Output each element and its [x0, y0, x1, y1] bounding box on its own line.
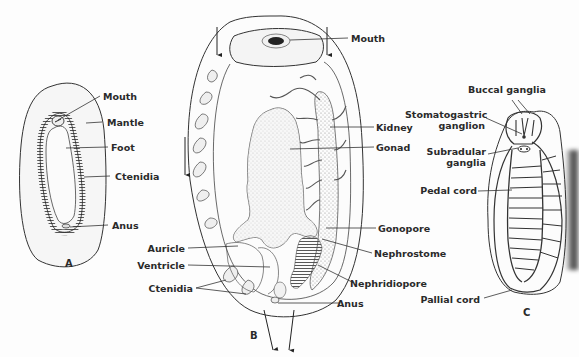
- label-b-auricle: Auricle: [130, 243, 185, 254]
- label-a-mouth: Mouth: [103, 91, 137, 102]
- label-c-subradular-line1: Subradular: [405, 146, 486, 157]
- label-b-ventricle: Ventricle: [124, 260, 185, 271]
- panel-a-drawing: [20, 83, 110, 267]
- label-a-ctenidia: Ctenidia: [115, 171, 159, 182]
- label-c-stomatogastric-line2: ganglion: [405, 120, 485, 131]
- figure-drawing: [0, 0, 579, 357]
- panel-letter-c: C: [523, 307, 530, 318]
- chiton-anatomy-figure: Mouth Mantle Foot Ctenidia Anus A Mouth …: [0, 0, 579, 357]
- label-b-nephridiopore: Nephridiopore: [350, 278, 427, 289]
- label-c-pallial-cord: Pallial cord: [400, 294, 480, 305]
- panel-letter-b: B: [250, 330, 258, 341]
- label-b-ctenidia: Ctenidia: [130, 283, 193, 294]
- label-b-gonopore: Gonopore: [378, 223, 430, 234]
- label-c-stomatogastric-line1: Stomatogastric: [405, 109, 485, 120]
- label-b-mouth: Mouth: [351, 33, 385, 44]
- panel-letter-a: A: [65, 258, 73, 269]
- panel-c-drawing: [478, 100, 566, 298]
- label-a-mantle: Mantle: [107, 117, 144, 128]
- label-b-anus: Anus: [337, 298, 364, 309]
- label-b-nephrostome: Nephrostome: [374, 248, 446, 259]
- label-a-foot: Foot: [111, 142, 135, 153]
- label-c-pedal-cord: Pedal cord: [405, 185, 477, 196]
- page-edge-shadow: [565, 150, 579, 270]
- label-a-anus: Anus: [112, 220, 139, 231]
- label-c-buccal-ganglia: Buccal ganglia: [468, 84, 546, 95]
- label-c-subradular-line2: ganglia: [405, 157, 486, 168]
